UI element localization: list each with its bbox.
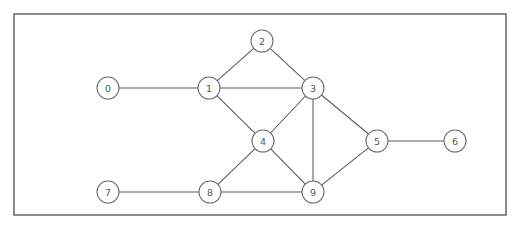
graph-node-6[interactable]: 6 — [444, 130, 466, 152]
graph-node-label-9: 9 — [310, 187, 316, 198]
graph-node-label-4: 4 — [260, 136, 266, 147]
graph-node-label-2: 2 — [259, 36, 265, 47]
graph-figure: 0123456789 — [0, 0, 519, 229]
graph-node-0[interactable]: 0 — [97, 77, 119, 99]
graph-node-1[interactable]: 1 — [198, 77, 220, 99]
graph-node-5[interactable]: 5 — [366, 130, 388, 152]
graph-node-7[interactable]: 7 — [97, 181, 119, 203]
graph-node-9[interactable]: 9 — [302, 181, 324, 203]
graph-node-label-0: 0 — [105, 83, 111, 94]
graph-node-8[interactable]: 8 — [199, 181, 221, 203]
graph-node-label-6: 6 — [452, 136, 458, 147]
graph-node-2[interactable]: 2 — [251, 30, 273, 52]
graph-node-4[interactable]: 4 — [252, 130, 274, 152]
graph-node-label-3: 3 — [310, 83, 316, 94]
graph-node-label-5: 5 — [374, 136, 380, 147]
graph-node-3[interactable]: 3 — [302, 77, 324, 99]
graph-node-label-7: 7 — [105, 187, 111, 198]
graph-node-label-8: 8 — [207, 187, 213, 198]
graph-node-label-1: 1 — [206, 83, 212, 94]
graph-canvas: 0123456789 — [0, 0, 519, 229]
